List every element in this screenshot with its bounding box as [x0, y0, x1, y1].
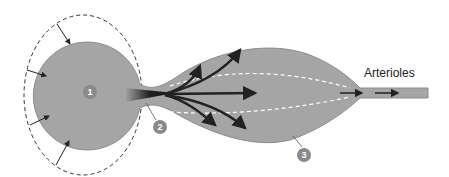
marker-2: 2: [153, 120, 167, 134]
diagram-canvas: [0, 0, 449, 177]
marker-1: 1: [83, 85, 97, 99]
arterioles-label: Arterioles: [364, 66, 415, 80]
marker-3: 3: [297, 148, 311, 162]
